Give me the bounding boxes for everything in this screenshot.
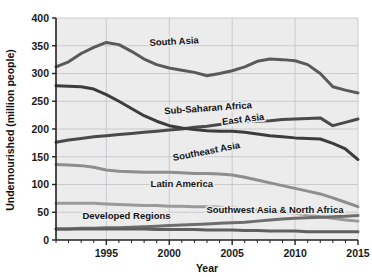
x-axis-tick-label: 2010 xyxy=(283,247,307,259)
y-axis-tick-label: 200 xyxy=(31,123,49,135)
undernourishment-line-chart: 050100150200250300350400 199520002005201… xyxy=(0,0,372,277)
y-axis-tick-label: 100 xyxy=(31,178,49,190)
series-label-developed-regions: Developed Regions xyxy=(82,210,170,221)
x-axis-tick-label: 2000 xyxy=(158,247,182,259)
y-axis-tick-label: 150 xyxy=(31,151,49,163)
series-label-latin-america: Latin America xyxy=(151,178,214,189)
y-axis-tick-label: 50 xyxy=(37,206,49,218)
series-label-southwest-asia-north-africa: Southwest Asia & North Africa xyxy=(206,204,344,215)
y-axis-tick-label: 0 xyxy=(43,234,49,246)
x-axis-tick-label: 2015 xyxy=(346,247,370,259)
y-axis-tick-label: 300 xyxy=(31,67,49,79)
x-axis-tick-label: 2005 xyxy=(220,247,244,259)
x-axis-title: Year xyxy=(196,262,218,274)
y-axis-tick-label: 250 xyxy=(31,95,49,107)
chart-canvas: 050100150200250300350400 199520002005201… xyxy=(0,0,372,277)
x-axis-tick-label: 1995 xyxy=(95,247,119,259)
y-axis-tick-label: 400 xyxy=(31,12,49,24)
y-axis-tick-label: 350 xyxy=(31,40,49,52)
y-axis-title: Undernourished (million people) xyxy=(4,49,16,211)
